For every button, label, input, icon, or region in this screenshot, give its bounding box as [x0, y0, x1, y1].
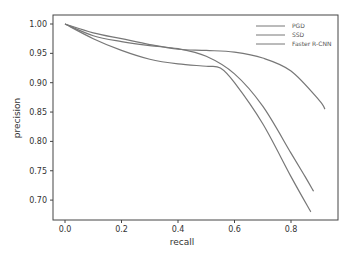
y-tick-label: 0.80 [29, 137, 47, 146]
y-tick-label: 1.00 [29, 20, 47, 29]
pr-curve-chart: 0.700.750.800.850.900.951.00 0.00.20.40.… [0, 0, 359, 256]
x-axis: 0.00.20.40.60.8 [59, 220, 298, 234]
legend-entry: SSD [292, 31, 305, 38]
x-tick-label: 0.2 [115, 225, 128, 234]
legend: PGDSSDFaster R-CNN [256, 22, 331, 47]
x-tick-label: 0.0 [59, 225, 72, 234]
x-tick-label: 0.6 [228, 225, 241, 234]
y-axis-label: precision [12, 98, 22, 139]
y-axis: 0.700.750.800.850.900.951.00 [29, 20, 53, 205]
series-line-1 [65, 24, 314, 191]
y-tick-label: 0.95 [29, 49, 47, 58]
y-tick-label: 0.90 [29, 79, 47, 88]
x-axis-label: recall [170, 237, 195, 247]
x-tick-label: 0.4 [172, 225, 185, 234]
legend-entry: Faster R-CNN [292, 40, 331, 47]
series-line-0 [65, 24, 325, 109]
x-tick-label: 0.8 [285, 225, 298, 234]
series-line-2 [65, 24, 311, 212]
y-tick-label: 0.70 [29, 196, 47, 205]
y-tick-label: 0.75 [29, 167, 47, 176]
series-lines [65, 24, 325, 212]
legend-entry: PGD [292, 22, 305, 29]
y-tick-label: 0.85 [29, 108, 47, 117]
